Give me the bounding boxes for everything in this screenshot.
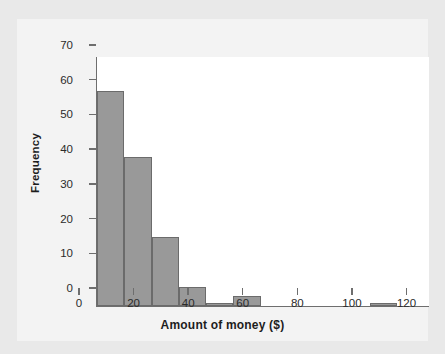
x-tick <box>187 288 188 295</box>
x-tick <box>133 288 134 295</box>
x-tick-label: 120 <box>385 297 429 309</box>
histogram-bars <box>97 57 429 306</box>
x-tick-label: 40 <box>166 297 210 309</box>
x-tick-label: 20 <box>112 297 156 309</box>
y-tick <box>89 253 96 254</box>
y-tick-label: 70 <box>31 39 73 51</box>
y-tick-label: 30 <box>31 178 73 190</box>
y-tick-label: 40 <box>31 143 73 155</box>
x-tick-label: 0 <box>57 297 101 309</box>
y-tick-label: 0 <box>31 282 73 294</box>
x-axis-title: Amount of money ($) <box>17 318 428 332</box>
x-tick-label: 100 <box>330 297 374 309</box>
x-tick-label: 60 <box>221 297 265 309</box>
x-tick <box>78 288 79 295</box>
histogram-bar <box>152 237 179 306</box>
histogram-bar <box>124 157 151 306</box>
y-tick <box>89 44 96 45</box>
chart-card: Frequency Amount of money ($) 0102030405… <box>17 19 428 341</box>
x-tick <box>242 288 243 295</box>
y-tick <box>89 148 96 149</box>
x-tick <box>406 288 407 295</box>
figure-canvas: Frequency Amount of money ($) 0102030405… <box>0 0 445 354</box>
histogram-bar <box>97 91 124 306</box>
y-tick-label: 20 <box>31 213 73 225</box>
x-tick <box>297 288 298 295</box>
y-tick-label: 50 <box>31 108 73 120</box>
x-tick <box>351 288 352 295</box>
y-tick-label: 60 <box>31 74 73 86</box>
y-tick <box>89 183 96 184</box>
y-tick <box>89 79 96 80</box>
x-tick-label: 80 <box>275 297 319 309</box>
y-tick <box>89 218 96 219</box>
y-tick <box>89 287 96 288</box>
y-tick-label: 10 <box>31 247 73 259</box>
y-tick <box>89 114 96 115</box>
plot-area <box>96 57 429 307</box>
